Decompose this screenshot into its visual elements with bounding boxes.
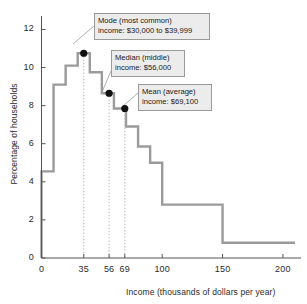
callout-median: Median (middle)income: $56,000 xyxy=(111,50,185,77)
x-tick-69: 69 xyxy=(113,264,137,274)
x-axis-title: Income (thousands of dollars per year) xyxy=(126,287,275,297)
marker-dot-mean xyxy=(121,105,128,112)
income-distribution-chart xyxy=(0,0,307,304)
y-tick-2: 2 xyxy=(8,214,34,224)
y-axis-title: Percentage of households xyxy=(9,74,19,194)
x-tick-200: 200 xyxy=(271,264,295,274)
marker-dot-mode xyxy=(80,50,87,57)
callout-mean: Mean (average)income: $69,100 xyxy=(138,84,212,111)
x-tick-100: 100 xyxy=(150,264,174,274)
callout-mean-line1: Mean (average) xyxy=(142,87,208,97)
callout-mode: Mode (most common)income: $30,000 to $39… xyxy=(94,13,210,40)
callout-median-line2: income: $56,000 xyxy=(115,63,181,73)
callout-median-line1: Median (middle) xyxy=(115,53,181,63)
x-tick-35: 35 xyxy=(72,264,96,274)
chart-container: 024681012 0355669100150200 Mode (most co… xyxy=(0,0,307,304)
y-tick-10: 10 xyxy=(8,62,34,72)
x-tick-0: 0 xyxy=(30,264,54,274)
marker-dot-median xyxy=(106,90,113,97)
x-tick-150: 150 xyxy=(211,264,235,274)
callout-mean-line2: income: $69,100 xyxy=(142,97,208,107)
marker-droplines xyxy=(84,53,125,258)
y-tick-12: 12 xyxy=(8,23,34,33)
callout-mode-line2: income: $30,000 to $39,999 xyxy=(98,26,206,36)
callout-mode-line1: Mode (most common) xyxy=(98,16,206,26)
y-tick-0: 0 xyxy=(8,252,34,262)
